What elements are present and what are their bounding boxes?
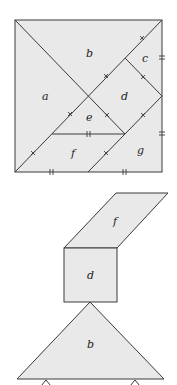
label-b: b <box>86 47 93 60</box>
label-c: c <box>142 52 148 65</box>
label-g: g <box>137 144 144 157</box>
label-d: d <box>121 90 128 103</box>
label-b-figure: b <box>87 338 94 351</box>
label-e: e <box>86 111 93 124</box>
label-d-figure: d <box>87 269 94 282</box>
lower-shape-tip-left <box>41 380 51 385</box>
tangram-figure: f d b <box>17 193 168 385</box>
lower-shape-tip-right <box>130 380 140 385</box>
label-a: a <box>42 90 49 103</box>
tangram-square: a b c d e f g <box>15 20 165 175</box>
tangram-diagram: a b c d e f g f d b <box>0 0 177 385</box>
